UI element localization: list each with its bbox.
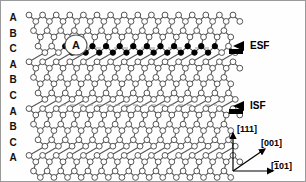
atom-open-r5c2-upper: [62, 90, 68, 96]
axis-101-suffix: 01]: [279, 161, 292, 171]
atom-open-r4c4-upper: [85, 75, 91, 81]
atom-open-r5c4-lower: [96, 97, 102, 103]
atom-open-r8c12-lower: [205, 143, 211, 149]
atom-open-r4c0-upper: [31, 75, 37, 81]
atom-open-r8c2-upper: [62, 137, 68, 143]
atom-filled-r2c12-upper: [199, 44, 204, 49]
atom-filled-r2c4-lower: [97, 50, 102, 55]
atom-open-r0c2-lower: [60, 19, 66, 25]
atom-open-r10c8-upper: [139, 168, 145, 174]
atom-open-r10c11-lower: [187, 175, 193, 181]
atom-open-r4c6-upper: [112, 75, 118, 81]
atom-open-r3c10-upper: [162, 59, 168, 65]
atom-open-r8c2-lower: [69, 143, 75, 149]
atom-open-r1c13-upper: [207, 28, 213, 34]
atom-open-r5c5-upper: [103, 90, 109, 96]
stacking-label-a-3: A: [4, 60, 22, 70]
atom-open-r1c10-upper: [167, 28, 173, 34]
atom-open-r10c11-upper: [180, 168, 186, 174]
atom-open-r8c0-upper: [35, 137, 41, 143]
atom-open-r3c2-upper: [53, 59, 59, 65]
atom-open-r7c1-upper: [44, 121, 50, 127]
atom-filled-r2c6-upper: [117, 44, 122, 49]
atom-open-r3c0-upper: [26, 59, 32, 65]
atom-open-r9c9-upper: [149, 153, 155, 159]
atom-open-r1c6-lower: [119, 34, 125, 40]
atom-open-r7c7-upper: [126, 121, 132, 127]
atom-open-r5c9-upper: [158, 90, 164, 96]
atom-open-r1c5-upper: [99, 28, 105, 34]
atom-open-r5c6-upper: [117, 90, 123, 96]
atom-open-r7c5-lower: [105, 128, 111, 134]
atom-open-r7c12-lower: [201, 128, 207, 134]
atom-open-r3c3-lower: [74, 65, 80, 71]
atom-open-r4c2-lower: [65, 81, 71, 87]
stacking-label-a-6: A: [4, 107, 22, 117]
atom-open-r8c11-lower: [192, 143, 198, 149]
atom-open-r10c5-upper: [99, 168, 105, 174]
atom-open-r8c8-lower: [151, 143, 157, 149]
atom-open-r7c6-upper: [112, 121, 118, 127]
atom-open-r1c12-lower: [201, 34, 207, 40]
atom-open-r4c5-lower: [105, 81, 111, 87]
atom-open-r9c8-upper: [135, 153, 141, 159]
atom-open-r4c4-lower: [92, 81, 98, 87]
atom-open-r6c13-lower: [210, 112, 216, 118]
stacking-label-c-2: C: [4, 44, 22, 54]
atom-open-r1c0-upper: [31, 28, 37, 34]
atom-open-r8c13-lower: [219, 143, 225, 149]
atom-open-r8c1-upper: [49, 137, 55, 143]
atom-open-r9c0-upper: [26, 153, 32, 159]
crystallographic-axes: [111] [001] [101]: [225, 125, 303, 179]
atom-open-r4c5-upper: [99, 75, 105, 81]
atom-open-r7c4-upper: [85, 121, 91, 127]
atom-open-r0c11-lower: [183, 19, 189, 25]
stacking-label-b-4: B: [4, 75, 22, 85]
atom-open-r3c0-lower: [33, 65, 39, 71]
atom-open-r0c3-lower: [74, 19, 80, 25]
atom-open-r6c2-upper: [53, 106, 59, 112]
atom-filled-r2c10-upper: [171, 44, 176, 49]
atom-open-r1c3-upper: [71, 28, 77, 34]
atom-open-r3c12-lower: [196, 65, 202, 71]
atom-open-r0c1-lower: [47, 19, 53, 25]
atom-open-r4c6-lower: [119, 81, 125, 87]
atom-open-r3c7-lower: [128, 65, 134, 71]
atom-open-r7c2-upper: [58, 121, 64, 127]
atom-open-r8c5-lower: [110, 143, 116, 149]
atom-open-r9c10-lower: [169, 159, 175, 165]
atom-open-r10c2-lower: [65, 175, 71, 181]
atom-open-r7c5-upper: [99, 121, 105, 127]
atom-open-r0c8-lower: [142, 19, 148, 25]
atom-open-r9c6-upper: [108, 153, 114, 159]
atom-open-r9c5-upper: [94, 153, 100, 159]
atom-open-r6c11-lower: [183, 112, 189, 118]
atom-open-r5c12-lower: [205, 97, 211, 103]
atom-open-r1c9-upper: [153, 28, 159, 34]
atom-open-r0c1-upper: [40, 12, 46, 18]
atom-open-r4c8-lower: [146, 81, 152, 87]
atom-open-r5c3-upper: [76, 90, 82, 96]
atom-filled-r2c9-lower: [165, 50, 170, 55]
atom-open-r4c13-upper: [207, 75, 213, 81]
atom-open-r10c10-upper: [167, 168, 173, 174]
atom-open-r9c2-lower: [60, 159, 66, 165]
atom-open-r10c6-lower: [119, 175, 125, 181]
atom-open-r7c9-lower: [160, 128, 166, 134]
atom-open-r5c3-lower: [83, 97, 89, 103]
atom-open-r4c9-upper: [153, 75, 159, 81]
atom-open-r9c4-lower: [87, 159, 93, 165]
atom-open-r10c12-upper: [194, 168, 200, 174]
atom-open-r6c7-upper: [121, 106, 127, 112]
atom-open-r0c10-lower: [169, 19, 175, 25]
atom-open-r4c0-lower: [37, 81, 43, 87]
atom-open-r3c15-upper: [230, 59, 236, 65]
atom-filled-r2c10-lower: [178, 50, 183, 55]
atom-open-r4c11-lower: [187, 81, 193, 87]
atom-open-r9c13-lower: [210, 159, 216, 165]
atom-open-r6c9-upper: [149, 106, 155, 112]
atom-open-r0c6-lower: [115, 19, 121, 25]
atom-open-r0c9-upper: [149, 12, 155, 18]
atom-open-r1c4-lower: [92, 34, 98, 40]
atom-open-r6c14-upper: [217, 106, 223, 112]
